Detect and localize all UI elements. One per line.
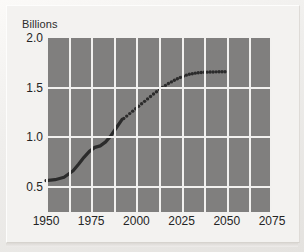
plot-area	[46, 38, 272, 212]
panel-shadow	[6, 243, 298, 247]
x-axis-tick-label: 2075	[259, 214, 286, 228]
y-axis-tick-label: 0.5	[3, 180, 43, 194]
series-projected-dot	[191, 72, 194, 75]
series-projected-dot	[170, 80, 173, 83]
series-projected-dot	[167, 82, 170, 85]
chart-screenshot: Billions 2.01.51.00.5 195019752000202520…	[0, 0, 304, 252]
x-axis-tick-label: 2050	[213, 214, 240, 228]
series-projected-dot	[152, 92, 155, 95]
series-projected-dot	[220, 70, 223, 73]
gridline-horizontal	[46, 136, 272, 138]
series-projected-dot	[217, 70, 220, 73]
series-projected-dot	[196, 71, 199, 74]
y-axis-tick-label: 1.5	[3, 81, 43, 95]
series-projected-dot	[176, 77, 179, 80]
series-projected-dot	[173, 79, 176, 82]
series-projected-dot	[149, 95, 152, 98]
series-projected-dot	[185, 73, 188, 76]
series-projected-dot	[199, 71, 202, 74]
series-projected-dot	[188, 73, 191, 76]
y-axis-tick-label: 2.0	[3, 31, 43, 45]
x-axis-tick-labels: 195019752000202520502075	[46, 214, 272, 234]
series-observed-line	[46, 120, 122, 181]
y-axis-unit-label: Billions	[22, 18, 58, 30]
series-projected-dot	[122, 117, 125, 120]
x-axis-tick-label: 1950	[33, 214, 60, 228]
series-projected-dot	[131, 109, 134, 112]
series-projected-dot	[140, 102, 143, 105]
y-axis-tick-label: 1.0	[3, 130, 43, 144]
series-projected-dot	[128, 112, 131, 115]
series-projected-dot	[155, 90, 158, 93]
series-projected-dot	[211, 70, 214, 73]
series-projected-dot	[146, 97, 149, 100]
x-axis-tick-label: 2025	[168, 214, 195, 228]
gridline-horizontal	[46, 186, 272, 188]
series-projected-dot	[214, 70, 217, 73]
series-projected-dot	[143, 100, 146, 103]
y-axis-tick-labels: 2.01.51.00.5	[0, 38, 43, 212]
series-projected-dot	[125, 114, 128, 117]
series-projected-dot	[194, 71, 197, 74]
x-axis-tick-label: 2000	[123, 214, 150, 228]
x-axis-tick-label: 1975	[78, 214, 105, 228]
gridline-horizontal	[46, 87, 272, 89]
series-projected-dot	[208, 70, 211, 73]
